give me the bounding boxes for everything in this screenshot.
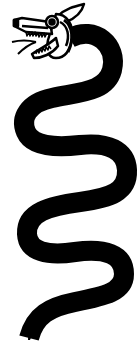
serpent-head xyxy=(12,4,84,58)
tongue xyxy=(12,41,36,55)
eye-pupil xyxy=(50,20,55,25)
serpent-body xyxy=(24,34,127,340)
serpent-illustration xyxy=(0,0,139,356)
